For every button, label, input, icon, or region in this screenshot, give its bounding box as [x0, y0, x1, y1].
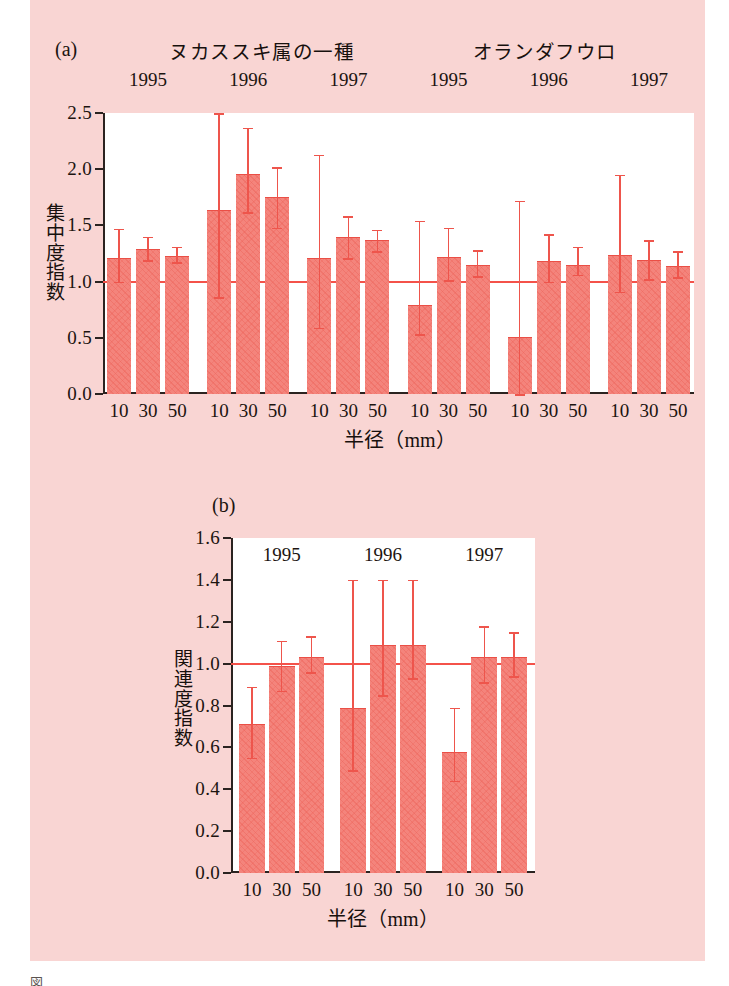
x-tick-label: 10	[310, 400, 329, 422]
error-bar-cap	[343, 216, 353, 218]
error-bar	[348, 216, 350, 258]
group-year-label: 1995	[263, 544, 301, 566]
bar	[299, 657, 325, 873]
panel-b-y-axis-title-char: 度	[172, 690, 194, 710]
panel-a-y-axis-title-char: 度	[44, 244, 66, 264]
error-bar-cap	[314, 155, 324, 157]
y-tick-label: 1.5	[67, 214, 92, 236]
x-tick-label: 30	[439, 400, 458, 422]
y-tick-label: 0.6	[195, 736, 220, 758]
error-bar	[281, 641, 283, 691]
y-tick-label: 2.0	[67, 158, 92, 180]
x-tick-label: 10	[445, 879, 464, 901]
panel-a-x-axis	[103, 392, 694, 394]
y-tick-label: 1.6	[195, 527, 220, 549]
panel-a-y-axis	[103, 113, 105, 394]
error-bar	[454, 708, 456, 781]
y-tick-label: 0.8	[195, 694, 220, 716]
y-tick	[95, 112, 103, 114]
error-bar-cap	[277, 641, 287, 643]
x-tick-label: 30	[239, 400, 258, 422]
y-tick-label: 0.4	[195, 778, 220, 800]
bar	[566, 265, 590, 394]
error-bar-cap	[114, 282, 124, 284]
y-tick-label: 0.2	[195, 820, 220, 842]
error-bar-cap	[644, 279, 654, 281]
y-tick-label: 1.4	[195, 568, 220, 590]
x-tick-label: 30	[339, 400, 358, 422]
error-bar-cap	[143, 260, 153, 262]
error-bar-cap	[272, 228, 282, 230]
x-tick-label: 30	[639, 400, 658, 422]
error-bar-cap	[615, 292, 625, 294]
error-bar-cap	[306, 672, 316, 674]
error-bar-cap	[673, 277, 683, 279]
panel-b-plot-area: 0.00.20.40.60.81.01.21.41.61030501030501…	[231, 538, 535, 873]
x-tick-label: 50	[468, 400, 487, 422]
error-bar-cap	[372, 251, 382, 253]
x-tick-label: 30	[539, 400, 558, 422]
error-bar-cap	[143, 237, 153, 239]
error-bar-cap	[515, 201, 525, 203]
bar	[336, 237, 360, 394]
error-bar-cap	[473, 276, 483, 278]
x-tick-label: 50	[568, 400, 587, 422]
y-tick	[223, 537, 231, 539]
error-bar-cap	[348, 770, 358, 772]
panel-a-plot-area: 0.00.51.01.52.02.51030501030501030501030…	[103, 113, 694, 394]
error-bar	[319, 155, 321, 328]
error-bar	[484, 626, 486, 683]
x-tick-label: 30	[272, 879, 291, 901]
error-bar-cap	[172, 247, 182, 249]
error-bar	[619, 175, 621, 292]
panel-b-y-axis-title-char: 指	[172, 709, 194, 729]
x-tick-label: 30	[139, 400, 158, 422]
error-bar-cap	[479, 682, 489, 684]
x-tick-label: 10	[610, 400, 629, 422]
figure-page: (a) ヌカススキ属の一種 オランダフウロ 集 中 度 指 数 0.00.51.…	[0, 0, 729, 986]
error-bar-cap	[444, 228, 454, 230]
y-tick	[223, 621, 231, 623]
error-bar-cap	[348, 580, 358, 582]
y-tick	[95, 281, 103, 283]
bar	[466, 265, 490, 394]
error-bar-cap	[544, 282, 554, 284]
error-bar-cap	[314, 328, 324, 330]
panel-b-y-axis-title-char: 数	[172, 729, 194, 749]
error-bar-cap	[615, 175, 625, 177]
error-bar-cap	[214, 113, 224, 115]
error-bar	[118, 229, 120, 282]
error-bar-cap	[509, 632, 519, 634]
x-tick-label: 50	[403, 879, 422, 901]
error-bar-cap	[444, 280, 454, 282]
y-tick	[95, 337, 103, 339]
panel-b-x-axis-title: 半径（mm）	[327, 903, 438, 932]
bar	[365, 240, 389, 394]
bar	[666, 266, 690, 394]
group-year-label: 1996	[530, 69, 568, 91]
x-tick-label: 10	[344, 879, 363, 901]
panel-a-y-axis-title-char: 集	[44, 204, 66, 224]
error-bar-cap	[450, 781, 460, 783]
error-bar	[412, 580, 414, 678]
error-bar	[382, 580, 384, 695]
error-bar-cap	[243, 128, 253, 130]
panel-a-y-axis-title: 集 中 度 指 数	[44, 204, 66, 303]
y-tick	[95, 168, 103, 170]
error-bar-cap	[573, 247, 583, 249]
x-tick-label: 10	[510, 400, 529, 422]
x-tick-label: 50	[302, 879, 321, 901]
y-tick	[223, 746, 231, 748]
error-bar	[677, 251, 679, 277]
group-year-label: 1996	[364, 544, 402, 566]
error-bar	[377, 230, 379, 251]
x-tick-label: 30	[374, 879, 393, 901]
panel-b-y-axis-title-char: 連	[172, 670, 194, 690]
group-year-label: 1995	[430, 69, 468, 91]
panel-a-species-label-2: オランダフウロ	[473, 36, 617, 65]
bar	[501, 657, 527, 873]
panel-a-y-axis-title-char: 中	[44, 224, 66, 244]
y-tick-label: 0.0	[195, 862, 220, 884]
error-bar	[577, 247, 579, 275]
panel-b-y-axis-title: 関 連 度 指 数	[172, 650, 194, 749]
